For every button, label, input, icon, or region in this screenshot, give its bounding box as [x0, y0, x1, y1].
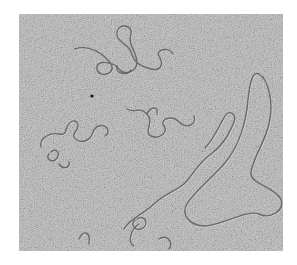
micrograph: [19, 14, 283, 251]
micrograph-canvas: [19, 14, 283, 251]
dark-particle: [90, 94, 93, 97]
